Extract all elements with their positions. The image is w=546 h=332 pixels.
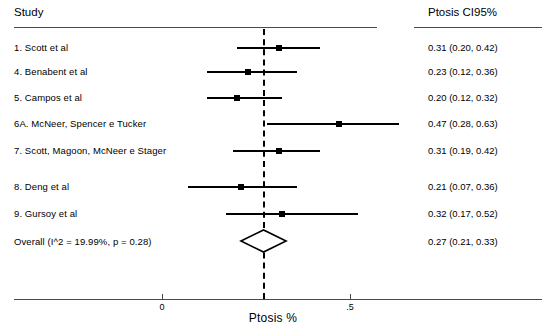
table-row: 7. Scott, Magoon, McNeer e Stager0.31 (0… <box>0 141 546 161</box>
forest-plot: Study Ptosis CI95% 1. Scott et al0.31 (0… <box>0 0 546 332</box>
summary-row: Overall (I^2 = 19.99%, p = 0.28)0.27 (0.… <box>0 232 546 252</box>
effect-value-text: 0.21 (0.07, 0.36) <box>428 181 498 192</box>
study-label: 7. Scott, Magoon, McNeer e Stager <box>14 145 166 156</box>
effect-value-text: 0.47 (0.28, 0.63) <box>428 118 498 129</box>
summary-label: Overall (I^2 = 19.99%, p = 0.28) <box>14 236 152 247</box>
header-rule-left <box>14 27 377 28</box>
effect-estimate-marker <box>238 184 244 190</box>
study-label: 5. Campos et al <box>14 92 82 103</box>
effect-column-header: Ptosis CI95% <box>428 6 497 18</box>
effect-value-text: 0.31 (0.19, 0.42) <box>428 145 498 156</box>
study-column-header: Study <box>14 6 43 18</box>
table-row: 8. Deng et al0.21 (0.07, 0.36) <box>0 177 546 197</box>
table-row: 9. Gursoy et al0.32 (0.17, 0.52) <box>0 204 546 224</box>
axis-tick <box>350 294 351 299</box>
axis-tick <box>162 294 163 299</box>
table-row: 6A. McNeer, Spencer e Tucker0.47 (0.28, … <box>0 114 546 134</box>
study-label: 4. Benabent et al <box>14 66 88 77</box>
header-rule-right <box>414 27 542 28</box>
summary-value-text: 0.27 (0.21, 0.33) <box>428 236 498 247</box>
confidence-interval-line <box>226 213 358 215</box>
effect-value-text: 0.23 (0.12, 0.36) <box>428 66 498 77</box>
x-axis-line <box>14 299 542 300</box>
study-label: 8. Deng et al <box>14 181 69 192</box>
effect-estimate-marker <box>234 95 240 101</box>
table-row: 4. Benabent et al0.23 (0.12, 0.36) <box>0 62 546 82</box>
x-axis-title: Ptosis % <box>0 311 546 325</box>
confidence-interval-line <box>207 97 282 99</box>
confidence-interval-line <box>207 71 297 73</box>
study-label: 6A. McNeer, Spencer e Tucker <box>14 118 146 129</box>
effect-estimate-marker <box>279 211 285 217</box>
effect-estimate-marker <box>276 148 282 154</box>
table-row: 1. Scott et al0.31 (0.20, 0.42) <box>0 38 546 58</box>
effect-estimate-marker <box>276 45 282 51</box>
table-row: 5. Campos et al0.20 (0.12, 0.32) <box>0 88 546 108</box>
effect-estimate-marker <box>336 121 342 127</box>
effect-estimate-marker <box>245 69 251 75</box>
confidence-interval-line <box>267 123 399 125</box>
effect-value-text: 0.20 (0.12, 0.32) <box>428 92 498 103</box>
effect-value-text: 0.31 (0.20, 0.42) <box>428 42 498 53</box>
effect-value-text: 0.32 (0.17, 0.52) <box>428 208 498 219</box>
study-label: 1. Scott et al <box>14 42 68 53</box>
study-label: 9. Gursoy et al <box>14 208 77 219</box>
